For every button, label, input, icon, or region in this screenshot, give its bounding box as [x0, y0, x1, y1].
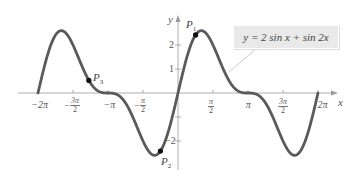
x-axis-label: x	[338, 97, 343, 108]
x-axis-arrow-icon	[331, 91, 338, 96]
x-tick-label: −3π2	[64, 97, 80, 114]
point-label-p2: P2	[161, 156, 171, 170]
x-tick-label: 3π2	[278, 97, 288, 115]
point-p2	[158, 148, 163, 153]
callout-leader	[229, 48, 257, 72]
x-tick-label: −2π	[31, 100, 48, 110]
y-tick-label: 1	[169, 64, 174, 74]
x-tick-label: −π2	[134, 97, 146, 114]
x-tick-label: π2	[208, 97, 214, 115]
y-tick-label: 2	[169, 40, 174, 50]
y-axis-arrow-icon	[176, 15, 181, 22]
equation-callout: y = 2 sin x + sin 2x	[233, 25, 339, 49]
x-tick-label: −π	[104, 100, 116, 110]
x-tick-label: π	[246, 100, 251, 110]
x-tick-label: 2π	[318, 100, 328, 110]
point-p3	[86, 78, 91, 83]
y-axis-label: y	[168, 14, 173, 25]
y-tick-label: −2	[165, 136, 176, 146]
point-label-p1: P1	[186, 19, 196, 33]
point-label-p3: P3	[93, 72, 103, 86]
